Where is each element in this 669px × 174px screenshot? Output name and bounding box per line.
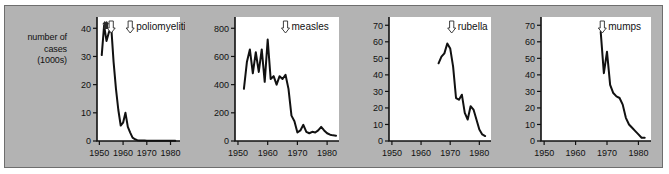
chart-rubella: 0102030405060701950196019701980rubella	[357, 13, 497, 161]
x-tick-label: 1980	[469, 148, 489, 158]
chart-mumps: 0102030405060701950196019701980mumps	[509, 13, 657, 161]
y-tick-label: 0	[86, 136, 91, 146]
y-tick-label: 20	[81, 80, 91, 90]
y-tick-label: 20	[525, 103, 535, 113]
plot-background	[97, 17, 180, 141]
x-tick-label: 1980	[628, 148, 648, 158]
x-tick-label: 1950	[228, 148, 248, 158]
x-tick-label: 1980	[317, 148, 337, 158]
y-tick-label: 200	[214, 108, 229, 118]
y-tick-label: 40	[373, 70, 383, 80]
y-tick-label: 0	[224, 136, 229, 146]
x-tick-label: 1970	[287, 148, 307, 158]
y-tick-label: 70	[525, 21, 535, 31]
figure-panel-container: number ofcases(1000s) 010203040195019601…	[4, 5, 663, 168]
x-tick-label: 1950	[534, 148, 554, 158]
y-tick-label: 800	[214, 24, 229, 34]
series-label-poliomyelitis: poliomyelitis	[136, 21, 185, 32]
x-tick-label: 1960	[258, 148, 278, 158]
x-tick-label: 1960	[113, 148, 133, 158]
y-tick-label: 60	[525, 37, 535, 47]
x-tick-label: 1960	[566, 148, 586, 158]
x-tick-label: 1970	[440, 148, 460, 158]
chart-poliomyelitis: 0102030401950196019701980poliomyelitis	[67, 13, 185, 161]
plot-background	[389, 17, 491, 141]
chart-panel-measles: 02004006008001950196019701980measles	[197, 13, 345, 161]
y-tick-label: 30	[525, 87, 535, 97]
y-tick-label: 30	[81, 52, 91, 62]
y-tick-label: 400	[214, 80, 229, 90]
y-tick-label: 40	[81, 24, 91, 34]
x-tick-label: 1980	[160, 148, 180, 158]
y-axis-title: number ofcases(1000s)	[9, 32, 67, 67]
y-tick-label: 50	[373, 54, 383, 64]
y-tick-label: 10	[373, 120, 383, 130]
series-label-rubella: rubella	[458, 21, 488, 32]
chart-panel-rubella: 0102030405060701950196019701980rubella	[357, 13, 497, 161]
x-tick-label: 1970	[137, 148, 157, 158]
x-tick-label: 1950	[382, 148, 402, 158]
y-tick-label: 0	[378, 136, 383, 146]
chart-panel-poliomyelitis: 0102030401950196019701980poliomyelitis	[67, 13, 185, 161]
plot-background	[541, 17, 651, 141]
x-tick-label: 1970	[597, 148, 617, 158]
x-tick-label: 1950	[89, 148, 109, 158]
x-tick-label: 1960	[411, 148, 431, 158]
chart-panel-mumps: 0102030405060701950196019701980mumps	[509, 13, 657, 161]
y-tick-label: 40	[525, 70, 535, 80]
series-label-mumps: mumps	[608, 21, 641, 32]
y-tick-label: 30	[373, 87, 383, 97]
y-tick-label: 20	[373, 103, 383, 113]
y-tick-label: 600	[214, 52, 229, 62]
chart-measles: 02004006008001950196019701980measles	[197, 13, 345, 161]
y-tick-label: 60	[373, 37, 383, 47]
y-tick-label: 70	[373, 21, 383, 31]
y-tick-label: 10	[81, 108, 91, 118]
y-tick-label: 0	[530, 136, 535, 146]
series-label-measles: measles	[292, 21, 329, 32]
y-tick-label: 10	[525, 120, 535, 130]
y-tick-label: 50	[525, 54, 535, 64]
